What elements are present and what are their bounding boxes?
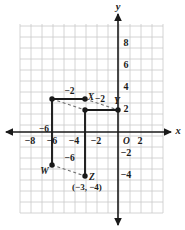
point-label-Z: Z [88,172,95,182]
vertex-dot [82,107,87,112]
x-tick-label-2-neg: −2 [91,135,102,146]
y-tick-label-4-neg: −4 [121,169,132,180]
y-axis-arrow-up [114,13,122,21]
vertex-dot [82,173,87,178]
vertex-dot [115,107,120,112]
x-tick-label-2: 2 [138,135,143,146]
y-axis-name-label: y [114,1,121,12]
y-tick-label-4: 4 [124,81,129,92]
x-tick-label-8-neg: −8 [25,135,36,146]
vertex-dot [49,96,54,101]
y-axis-arrow-down [114,218,122,226]
y-tick-label-2: 2 [124,103,129,114]
x-tick-label-4-neg: −4 [69,135,80,146]
y-tick-label-8: 8 [124,37,129,48]
vertex-dot [49,162,54,167]
coordinate-graph-figure: xy−8−6−4−22O8642−2−4XYWZ(−3, −4)−2−2−6−6 [0,0,185,230]
segment-label-right-of-x: −2 [95,94,105,104]
z-coordinate-annotation: (−3, −4) [72,182,102,192]
x-axis-arrow-left [5,128,13,136]
x-axis-name-label: x [174,125,180,136]
x-axis-arrow-right [164,128,172,136]
segment-label-top: −2 [64,86,74,96]
segment-label-left-side: −6 [39,124,49,134]
coordinate-plane-svg: xy−8−6−4−22O8642−2−4XYWZ(−3, −4)−2−2−6−6 [0,0,185,230]
point-label-X: X [87,92,95,102]
origin-label: O [123,136,130,146]
y-tick-label-2-neg: −2 [121,147,132,158]
point-label-W: W [40,166,49,176]
segment-label-lower-middle: −6 [65,153,75,163]
y-tick-label-6: 6 [124,59,129,70]
